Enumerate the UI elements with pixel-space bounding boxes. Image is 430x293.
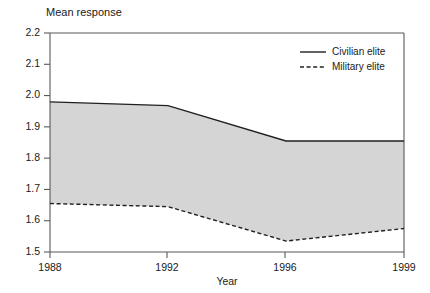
x-axis-title: Year: [216, 275, 238, 287]
y-tick-label-5: 1.7: [25, 182, 40, 194]
x-axis-tick-labels: 1988 1992 1996 1999: [38, 261, 416, 273]
y-tick-label-3: 1.9: [25, 120, 40, 132]
mean-response-line-chart: 2.2 2.1 2.0 1.9 1.8 1.7 1.6 1.5 1988 199…: [0, 0, 430, 293]
x-tick-label-0: 1988: [38, 261, 62, 273]
chart-page: Mean response 2.2 2.1 2.0 1.9 1.8 1.7: [0, 0, 430, 293]
y-tick-label-2: 2.0: [25, 88, 40, 100]
y-tick-label-4: 1.8: [25, 151, 40, 163]
x-tick-label-2: 1996: [273, 261, 297, 273]
legend-label-civilian-elite: Civilian elite: [332, 46, 386, 57]
y-tick-label-6: 1.6: [25, 213, 40, 225]
x-tick-label-3: 1999: [392, 261, 416, 273]
y-tick-label-0: 2.2: [25, 26, 40, 38]
x-axis-ticks: [50, 252, 404, 258]
y-tick-label-7: 1.5: [25, 245, 40, 257]
y-axis-ticks: [44, 33, 50, 252]
legend-label-military-elite: Military elite: [332, 61, 385, 72]
chart-legend: Civilian elite Military elite: [300, 46, 386, 72]
y-axis-tick-labels: 2.2 2.1 2.0 1.9 1.8 1.7 1.6 1.5: [25, 26, 40, 257]
y-tick-label-1: 2.1: [25, 57, 40, 69]
x-tick-label-1: 1992: [155, 261, 179, 273]
